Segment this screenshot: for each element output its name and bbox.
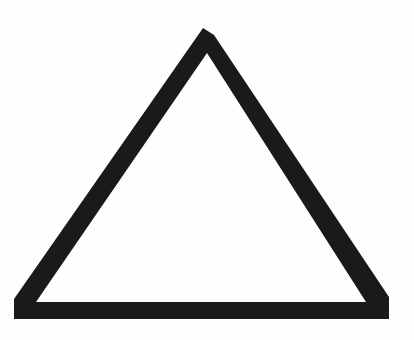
triangle-outline-icon	[0, 0, 414, 340]
image-canvas	[0, 0, 414, 340]
triangle-shape	[14, 28, 389, 319]
